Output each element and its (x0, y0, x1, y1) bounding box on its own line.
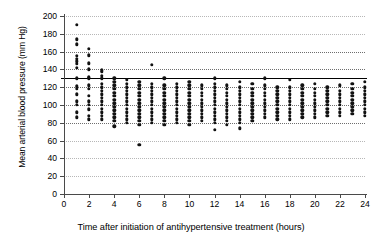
x-tick-label-20: 20 (310, 200, 320, 209)
data-point (125, 121, 128, 124)
x-axis-title: Time after initiation of antihypertensiv… (0, 222, 382, 232)
x-tick-0 (64, 194, 65, 198)
data-point (288, 78, 291, 81)
data-point (225, 123, 228, 126)
data-point (75, 23, 78, 26)
data-point (213, 128, 216, 131)
y-tick-label-40: 40 (47, 154, 57, 163)
data-point (75, 116, 78, 119)
y-tick-label-20: 20 (47, 172, 57, 181)
x-tick-8 (164, 194, 165, 198)
y-tick-label-60: 60 (47, 136, 57, 145)
data-point (351, 82, 354, 85)
gridline-200 (64, 16, 365, 17)
x-tick-label-6: 6 (137, 200, 142, 209)
scatter-chart-figure: Mean arterial blood pressure (mm Hg) 020… (0, 0, 382, 246)
data-point (163, 77, 166, 80)
data-point (75, 87, 78, 90)
data-point (87, 118, 90, 121)
data-point (351, 112, 354, 115)
y-tick-label-160: 160 (43, 47, 57, 56)
data-point (363, 114, 366, 117)
plot-area: 020406080100120140160180200 024681012141… (64, 16, 365, 194)
x-tick-label-16: 16 (260, 200, 270, 209)
data-point (326, 114, 329, 117)
data-point (75, 43, 78, 46)
x-tick-label-18: 18 (285, 200, 295, 209)
x-tick-label-4: 4 (112, 200, 117, 209)
x-tick-10 (189, 194, 190, 198)
data-point (238, 121, 241, 124)
data-point (87, 108, 90, 111)
data-point (87, 47, 90, 50)
x-tick-label-22: 22 (335, 200, 345, 209)
data-point (175, 121, 178, 124)
data-point (138, 123, 141, 126)
y-tick-180 (60, 34, 64, 35)
data-point (263, 77, 266, 80)
y-tick-20 (60, 176, 64, 177)
x-tick-20 (315, 194, 316, 198)
x-tick-label-0: 0 (62, 200, 67, 209)
gridline-60 (64, 141, 365, 142)
x-tick-14 (240, 194, 241, 198)
x-tick-label-2: 2 (87, 200, 92, 209)
data-point (87, 94, 90, 97)
y-tick-160 (60, 52, 64, 53)
data-point (250, 82, 253, 85)
data-point (363, 80, 366, 83)
y-tick-40 (60, 158, 64, 159)
y-tick-label-0: 0 (52, 190, 57, 199)
data-point (150, 121, 153, 124)
y-tick-label-140: 140 (43, 65, 57, 74)
data-point (75, 93, 78, 96)
x-tick-2 (89, 194, 90, 198)
y-axis-title: Mean arterial blood pressure (mm Hg) (17, 0, 27, 197)
gridline-160 (64, 52, 365, 53)
x-tick-label-14: 14 (235, 200, 245, 209)
data-point (150, 63, 153, 66)
y-tick-label-100: 100 (43, 101, 57, 110)
y-tick-label-80: 80 (47, 118, 57, 127)
data-point (138, 143, 141, 146)
data-point (112, 125, 115, 128)
data-point (87, 87, 90, 90)
data-point (188, 123, 191, 126)
data-point (75, 77, 78, 80)
x-tick-18 (290, 194, 291, 198)
x-tick-6 (139, 194, 140, 198)
x-tick-16 (265, 194, 266, 198)
x-tick-24 (365, 194, 366, 198)
data-point (288, 118, 291, 121)
data-point (100, 118, 103, 121)
data-point (238, 80, 241, 83)
x-tick-4 (114, 194, 115, 198)
data-point (313, 82, 316, 85)
data-point (87, 53, 90, 56)
data-point (338, 114, 341, 117)
data-point (301, 116, 304, 119)
gridline-40 (64, 158, 365, 159)
data-point (87, 77, 90, 80)
data-point (213, 121, 216, 124)
data-point (87, 103, 90, 106)
data-point (213, 77, 216, 80)
data-point (100, 77, 103, 80)
y-tick-label-120: 120 (43, 83, 57, 92)
y-tick-label-200: 200 (43, 12, 57, 21)
y-tick-80 (60, 123, 64, 124)
x-tick-label-10: 10 (185, 200, 195, 209)
data-point (263, 116, 266, 119)
data-point (87, 68, 90, 71)
x-tick-12 (215, 194, 216, 198)
x-tick-label-8: 8 (162, 200, 167, 209)
data-point (238, 126, 241, 129)
y-tick-140 (60, 69, 64, 70)
data-point (276, 118, 279, 121)
y-tick-100 (60, 105, 64, 106)
y-tick-label-180: 180 (43, 29, 57, 38)
data-point (163, 123, 166, 126)
data-point (75, 37, 78, 40)
x-tick-22 (340, 194, 341, 198)
gridline-140 (64, 69, 365, 70)
